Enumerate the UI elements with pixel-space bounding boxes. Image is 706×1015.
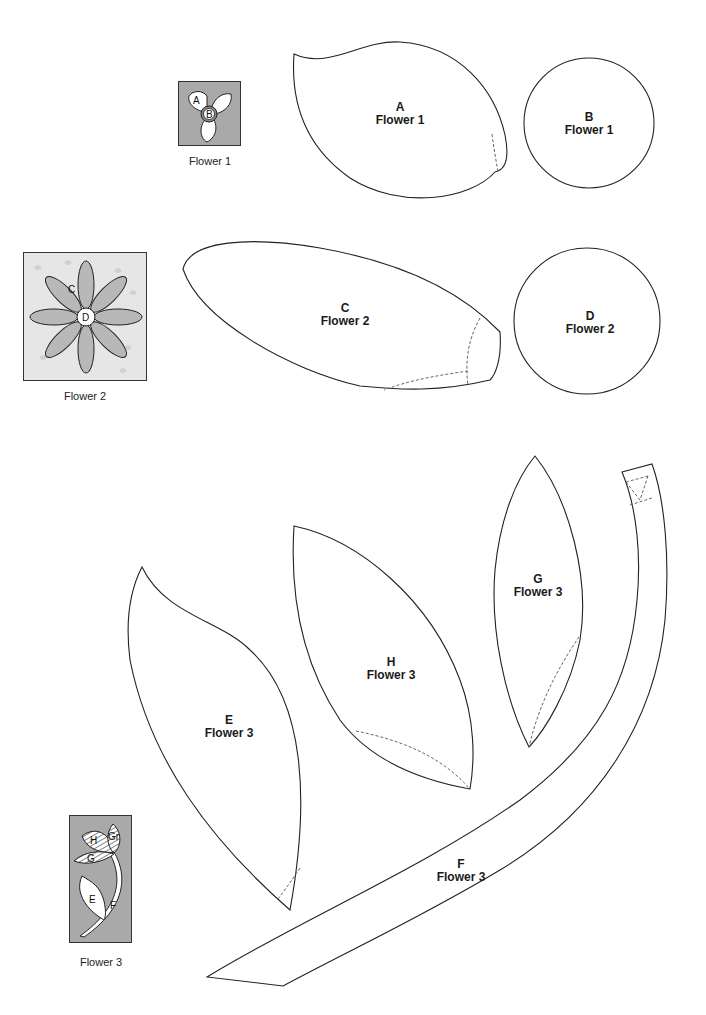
piece-e-label: E Flower 3 bbox=[205, 714, 254, 740]
thumb-letter-b: B bbox=[206, 109, 213, 120]
flower-1-caption: Flower 1 bbox=[189, 155, 231, 167]
piece-f-label: F Flower 3 bbox=[437, 858, 486, 884]
thumb-letter-d: D bbox=[82, 312, 89, 323]
flower-2-thumbnail: C D bbox=[23, 252, 147, 381]
template-page: A Flower 1 B Flower 1 C Flower 2 D Flowe… bbox=[0, 0, 706, 1015]
flower-3-caption: Flower 3 bbox=[80, 956, 122, 968]
thumb-letter-e: E bbox=[89, 894, 96, 905]
flower-1-thumbnail: A B bbox=[178, 81, 241, 146]
piece-b-label: B Flower 1 bbox=[565, 111, 614, 137]
piece-flower-name: Flower 3 bbox=[367, 669, 416, 682]
thumb-letter-c: C bbox=[68, 284, 75, 295]
flower-1-diagram: A B bbox=[179, 82, 242, 147]
piece-h-label: H Flower 3 bbox=[367, 656, 416, 682]
piece-g-label: G Flower 3 bbox=[514, 573, 563, 599]
piece-c-label: C Flower 2 bbox=[321, 302, 370, 328]
thumb-letter-f: F bbox=[110, 900, 116, 911]
piece-flower-name: Flower 3 bbox=[205, 727, 254, 740]
piece-flower-name: Flower 1 bbox=[565, 124, 614, 137]
piece-g-outline bbox=[494, 456, 583, 747]
piece-d-label: D Flower 2 bbox=[566, 310, 615, 336]
flower-3-thumbnail: H Gr G E F bbox=[69, 815, 132, 943]
piece-flower-name: Flower 2 bbox=[321, 315, 370, 328]
flower-3-diagram: H Gr G E F bbox=[70, 816, 133, 944]
piece-flower-name: Flower 3 bbox=[514, 586, 563, 599]
piece-flower-name: Flower 1 bbox=[376, 114, 425, 127]
piece-flower-name: Flower 3 bbox=[437, 871, 486, 884]
thumb-letter-h: H bbox=[90, 835, 97, 846]
thumb-letter-gr: Gr bbox=[108, 831, 120, 842]
thumb-letter-g: G bbox=[87, 853, 95, 864]
piece-flower-name: Flower 2 bbox=[566, 323, 615, 336]
thumb-letter-a: A bbox=[193, 95, 200, 106]
flower-2-caption: Flower 2 bbox=[64, 390, 106, 402]
piece-a-label: A Flower 1 bbox=[376, 101, 425, 127]
flower-2-diagram: C D bbox=[24, 253, 148, 382]
